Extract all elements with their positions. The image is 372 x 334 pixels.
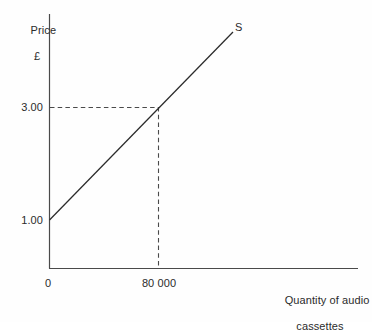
supply-curve-label: S — [235, 21, 242, 34]
x-axis-title-line1: Quantity of audio — [285, 294, 370, 306]
supply-curve-line — [50, 32, 234, 220]
y-axis-title: Price £ — [14, 11, 60, 89]
origin-tick-label: 0 — [41, 277, 55, 290]
y-axis-tick-label-1-00: 1.00 — [12, 214, 43, 227]
y-axis-tick-label-3-00: 3.00 — [12, 101, 43, 114]
y-axis-title-text: Price — [31, 24, 57, 36]
y-axis-unit-text: £ — [14, 50, 60, 63]
x-axis-title: Quantity of audio cassettes — [272, 281, 368, 334]
x-axis-tick-label-80000: 80 000 — [131, 277, 187, 290]
x-axis-title-line2: cassettes — [272, 320, 368, 333]
